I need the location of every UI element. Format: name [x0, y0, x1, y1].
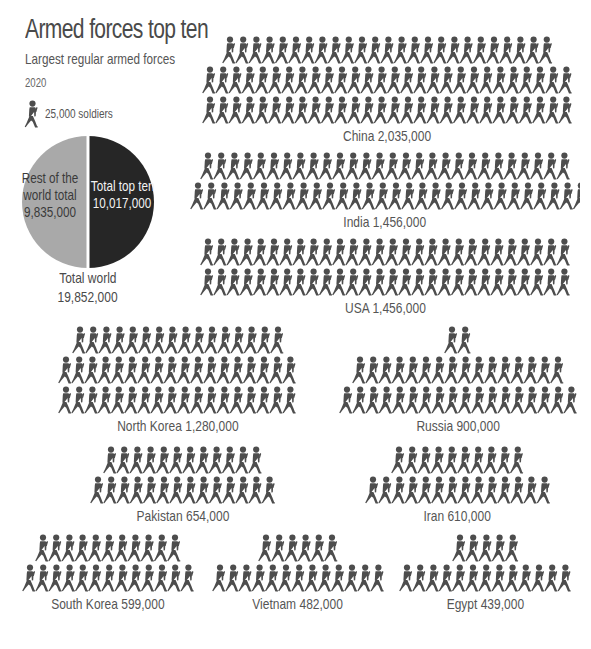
soldier-icon: [111, 387, 124, 414]
soldier-icon: [182, 447, 195, 474]
soldier-icon: [457, 327, 470, 354]
soldier-icon: [381, 37, 394, 64]
soldier-icon: [217, 357, 230, 384]
soldier-icon: [440, 97, 453, 124]
soldier-icon: [536, 477, 549, 504]
soldier-icon: [156, 477, 169, 504]
soldier-icon: [385, 153, 398, 180]
soldier-icon: [242, 67, 255, 94]
soldier-icon: [200, 239, 213, 266]
soldier-icon: [209, 477, 222, 504]
soldier-icon: [222, 37, 235, 64]
country-label: China 2,035,000: [195, 127, 580, 145]
soldier-icon: [438, 565, 451, 592]
soldier-row: [55, 386, 300, 416]
soldier-icon: [387, 97, 400, 124]
soldier-row: [200, 268, 570, 298]
soldier-icon: [497, 357, 510, 384]
soldier-icon: [58, 357, 71, 384]
soldier-icon: [222, 447, 235, 474]
soldier-icon: [520, 183, 533, 210]
soldier-icons: [35, 534, 181, 562]
soldier-icon: [464, 269, 477, 296]
soldier-icon: [425, 269, 438, 296]
country-label-text: Russia 900,000: [416, 417, 499, 434]
soldier-icon: [98, 387, 111, 414]
soldier-icon: [532, 67, 545, 94]
soldier-icon: [141, 535, 154, 562]
soldier-icons: [58, 356, 297, 384]
legend-label: 25,000 soldiers: [45, 107, 113, 121]
soldier-icon: [418, 447, 431, 474]
soldier-icon: [213, 153, 226, 180]
soldier-row: [18, 564, 198, 594]
soldier-icons: [391, 446, 524, 474]
soldier-icon: [230, 387, 243, 414]
soldier-icon: [127, 565, 140, 592]
soldier-icon: [335, 183, 348, 210]
soldier-icon: [177, 387, 190, 414]
chart-title: Armed forces top ten: [25, 14, 208, 45]
soldier-icon: [230, 327, 243, 354]
soldier-icon: [367, 37, 380, 64]
soldier-icon: [292, 153, 305, 180]
soldier-icon: [518, 565, 531, 592]
soldier-icon: [557, 239, 570, 266]
soldier-icon: [428, 183, 441, 210]
soldier-icon: [103, 447, 116, 474]
soldier-icon: [526, 37, 539, 64]
soldier-icon: [433, 37, 446, 64]
soldier-icon: [523, 477, 536, 504]
soldier-icon: [256, 387, 269, 414]
soldier-icon: [465, 535, 478, 562]
soldier-icon: [283, 183, 296, 210]
soldier-icon: [269, 387, 282, 414]
country-label-text: India 1,456,000: [344, 213, 427, 230]
soldier-icon: [103, 477, 116, 504]
soldier-icon: [361, 67, 374, 94]
soldier-icon: [452, 535, 465, 562]
soldier-icon: [497, 477, 510, 504]
soldier-icon: [431, 387, 444, 414]
soldier-icon: [559, 67, 572, 94]
soldier-icon: [478, 535, 491, 562]
soldier-icon: [304, 565, 317, 592]
soldier-icon: [240, 269, 253, 296]
soldier-icon: [125, 327, 138, 354]
soldier-icon: [533, 183, 546, 210]
soldier-icon: [424, 153, 437, 180]
soldier-icon: [114, 535, 127, 562]
soldier-icon: [154, 565, 167, 592]
soldier-icon: [530, 239, 543, 266]
soldier-icon: [394, 37, 407, 64]
soldier-icon: [484, 357, 497, 384]
soldier-icon: [319, 153, 332, 180]
soldier-icon: [332, 153, 345, 180]
soldier-icon: [484, 447, 497, 474]
soldier-icon: [124, 357, 137, 384]
soldier-icon: [470, 447, 483, 474]
soldier-icon: [354, 37, 367, 64]
soldier-icon: [248, 447, 261, 474]
soldier-icon: [251, 565, 264, 592]
soldier-icon: [530, 269, 543, 296]
soldier-icon: [479, 97, 492, 124]
soldier-icon: [116, 447, 129, 474]
soldier-icon: [400, 67, 413, 94]
soldier-icons: [222, 36, 553, 64]
soldier-icon: [341, 37, 354, 64]
soldier-icon: [137, 357, 150, 384]
soldier-icon: [324, 535, 337, 562]
soldier-icon: [510, 447, 523, 474]
soldier-icon: [362, 183, 375, 210]
soldier-icon: [249, 37, 262, 64]
country-group-south-korea: South Korea 599,000: [18, 534, 198, 613]
soldier-icon: [279, 269, 292, 296]
soldier-icon: [477, 153, 490, 180]
soldier-icon: [85, 327, 98, 354]
soldier-icon: [510, 387, 523, 414]
soldier-icon: [334, 67, 347, 94]
soldier-icon: [361, 97, 374, 124]
soldier-icon: [265, 565, 278, 592]
soldier-icons: [452, 534, 519, 562]
